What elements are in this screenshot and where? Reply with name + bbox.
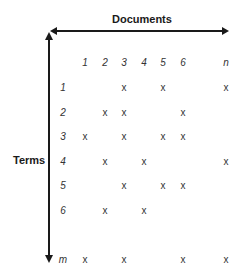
row-label: 4 — [60, 156, 66, 167]
cell-mark: x — [181, 131, 186, 142]
cell-mark: x — [83, 254, 88, 265]
cell-mark: x — [122, 131, 127, 142]
cell-mark: x — [103, 107, 108, 118]
cell-mark: x — [103, 156, 108, 167]
column-header: n — [223, 57, 229, 68]
documents-axis-line — [54, 30, 224, 32]
cell-mark: x — [224, 156, 229, 167]
cell-mark: x — [224, 254, 229, 265]
column-header: 4 — [141, 57, 147, 68]
cell-mark: x — [181, 180, 186, 191]
cell-mark: x — [161, 82, 166, 93]
cell-mark: x — [122, 180, 127, 191]
column-header: 2 — [102, 57, 108, 68]
cell-mark: x — [142, 156, 147, 167]
cell-mark: x — [122, 254, 127, 265]
column-header: 1 — [82, 57, 88, 68]
row-label: 5 — [60, 180, 66, 191]
documents-arrow-right-icon — [222, 27, 229, 35]
terms-axis-line — [48, 38, 50, 256]
terms-axis-title: Terms — [13, 154, 45, 166]
row-label: 6 — [60, 205, 66, 216]
terms-arrow-down-icon — [45, 255, 53, 263]
cell-mark: x — [103, 205, 108, 216]
cell-mark: x — [142, 205, 147, 216]
cell-mark: x — [224, 82, 229, 93]
cell-mark: x — [122, 82, 127, 93]
cell-mark: x — [161, 180, 166, 191]
cell-mark: x — [83, 131, 88, 142]
cell-mark: x — [161, 131, 166, 142]
row-label: 3 — [60, 131, 66, 142]
row-label: 1 — [60, 82, 66, 93]
column-header: 5 — [160, 57, 166, 68]
terms-arrow-up-icon — [45, 32, 53, 40]
column-header: 6 — [180, 57, 186, 68]
cell-mark: x — [181, 254, 186, 265]
row-label: 2 — [60, 107, 66, 118]
cell-mark: x — [181, 107, 186, 118]
row-label: m — [59, 254, 67, 265]
cell-mark: x — [122, 107, 127, 118]
column-header: 3 — [121, 57, 127, 68]
documents-axis-title: Documents — [112, 13, 172, 25]
